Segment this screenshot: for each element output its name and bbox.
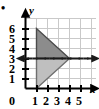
figure-root: • y x 6 5 4 3 2 1 0 1 2 3 4 5: [0, 0, 99, 109]
bullet-marker: •: [1, 1, 5, 15]
coordinate-plane-figure: • y x 6 5 4 3 2 1 0 1 2 3 4 5: [0, 0, 99, 109]
x-tick-label-5: 5: [76, 94, 82, 108]
x-tick-label-4: 4: [65, 94, 71, 108]
x-axis-label: x: [89, 83, 96, 95]
y-tick-label-1: 1: [9, 72, 15, 86]
y-axis-label: y: [27, 4, 34, 16]
x-tick-label-2: 2: [43, 94, 49, 108]
y-tick-labels: 6 5 4 3 2 1: [9, 22, 15, 86]
x-tick-label-3: 3: [54, 94, 60, 108]
x-tick-label-1: 1: [32, 94, 38, 108]
origin-label: 0: [9, 94, 15, 108]
